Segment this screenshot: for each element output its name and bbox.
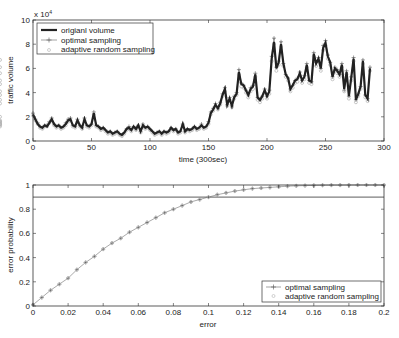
bottom-y-tick-label: 0.8 bbox=[19, 205, 31, 214]
bottom-x-tick-label: 0.12 bbox=[236, 308, 252, 317]
bottom-x-tick-label: 0.04 bbox=[95, 308, 111, 317]
bottom-y-tick-label: 0.6 bbox=[19, 229, 31, 238]
top-line-original bbox=[33, 42, 370, 135]
top-point-optimal bbox=[272, 36, 276, 40]
top-point-optimal bbox=[279, 40, 283, 44]
top-x-tick-label: 0 bbox=[31, 143, 36, 152]
bottom-x-tick-label: 0 bbox=[31, 308, 36, 317]
top-point-adaptive bbox=[0, 72, 2, 75]
bottom-legend: optimal sampling adaptive random samplin… bbox=[262, 281, 381, 302]
top-point-adaptive bbox=[0, 102, 2, 105]
legend-label-original: origianl volume bbox=[61, 26, 115, 35]
bottom-x-tick-label: 0.1 bbox=[203, 308, 215, 317]
bottom-y-tick-label: 1 bbox=[26, 181, 31, 190]
bottom-y-tick-label: 0.2 bbox=[19, 278, 31, 287]
bottom-x-tick-label: 0.18 bbox=[341, 308, 357, 317]
top-x-tick-label: 50 bbox=[87, 143, 96, 152]
top-x-tick-label: 200 bbox=[260, 143, 274, 152]
top-y-tick-label: 8 bbox=[26, 40, 31, 49]
legend-label-optimal: optimal sampling bbox=[61, 36, 121, 45]
bottom-y-tick-label: 0.4 bbox=[19, 254, 31, 263]
bottom-y-axis-label: error probability bbox=[6, 217, 15, 273]
top-plot: 0501001502002503000246810 x 104 time (30… bbox=[0, 9, 391, 164]
bottom-x-tick-label: 0.08 bbox=[166, 308, 182, 317]
top-y-tick-label: 0 bbox=[26, 137, 31, 146]
top-x-axis-label: time (300sec) bbox=[179, 155, 228, 164]
top-y-axis-label: traffic volume bbox=[6, 56, 15, 104]
legend-label-adaptive-bottom: adaptive random sampling bbox=[285, 292, 379, 301]
top-point-adaptive bbox=[0, 58, 2, 61]
top-point-adaptive bbox=[0, 115, 2, 118]
top-x-tick-label: 150 bbox=[202, 143, 216, 152]
top-point-adaptive bbox=[0, 66, 2, 69]
bottom-x-tick-label: 0.06 bbox=[131, 308, 147, 317]
top-y-tick-label: 6 bbox=[26, 64, 31, 73]
top-point-optimal bbox=[237, 68, 241, 72]
top-y-exponent: x 104 bbox=[34, 9, 52, 19]
top-point-adaptive bbox=[0, 83, 2, 86]
bottom-x-tick-label: 0.2 bbox=[378, 308, 390, 317]
top-x-tick-label: 250 bbox=[319, 143, 333, 152]
top-point-adaptive bbox=[0, 98, 2, 101]
top-series-adaptive bbox=[0, 43, 371, 138]
top-point-adaptive bbox=[0, 90, 2, 93]
bottom-plot: 00.020.040.060.080.10.120.140.160.180.20… bbox=[6, 181, 390, 329]
top-point-adaptive bbox=[0, 79, 2, 82]
top-x-tick-label: 300 bbox=[377, 143, 391, 152]
bottom-x-tick-label: 0.14 bbox=[271, 308, 287, 317]
top-y-tick-label: 4 bbox=[26, 89, 31, 98]
top-point-adaptive bbox=[275, 69, 278, 72]
figure: 0501001502002503000246810 x 104 time (30… bbox=[0, 0, 399, 338]
legend-label-optimal-bottom: optimal sampling bbox=[285, 283, 345, 292]
top-y-tick-label: 2 bbox=[26, 113, 31, 122]
bottom-x-axis-label: error bbox=[200, 320, 217, 329]
bottom-y-tick-label: 0 bbox=[26, 302, 31, 311]
top-legend: origianl volume optimal sampling adaptiv… bbox=[37, 23, 155, 54]
bottom-x-tick-label: 0.02 bbox=[60, 308, 76, 317]
bottom-x-tick-label: 0.16 bbox=[306, 308, 322, 317]
legend-label-adaptive: adaptive random sampling bbox=[61, 45, 155, 54]
top-y-tick-label: 10 bbox=[21, 16, 30, 25]
top-point-adaptive bbox=[0, 94, 2, 97]
top-x-tick-label: 100 bbox=[143, 143, 157, 152]
top-series-original bbox=[33, 42, 370, 135]
